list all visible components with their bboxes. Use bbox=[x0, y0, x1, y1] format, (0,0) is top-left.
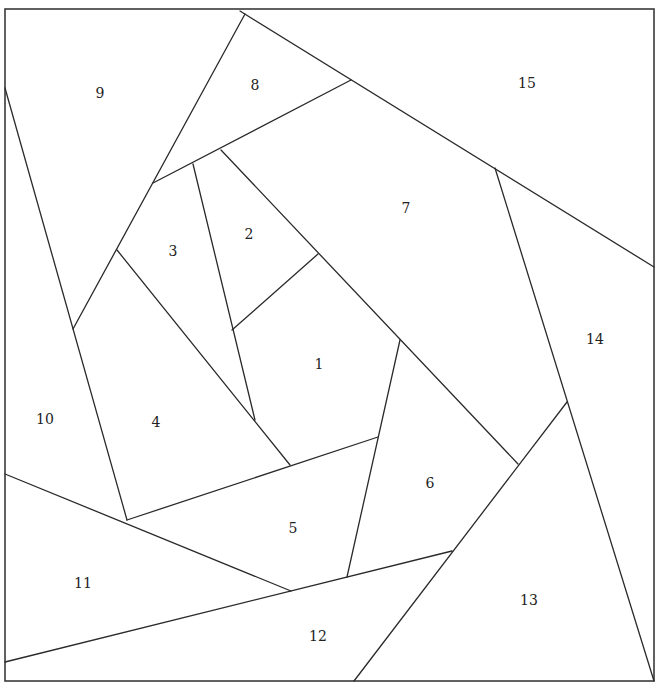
divider-line bbox=[240, 11, 654, 267]
region-label-1: 1 bbox=[315, 356, 324, 372]
divider-line bbox=[193, 164, 255, 420]
region-label-11: 11 bbox=[74, 575, 92, 591]
divider-line bbox=[5, 474, 291, 591]
divider-line bbox=[495, 168, 654, 681]
region-label-10: 10 bbox=[36, 411, 54, 427]
divider-line bbox=[117, 250, 290, 465]
tiling-diagram: 123456789101112131415 bbox=[0, 0, 660, 684]
divider-line bbox=[221, 150, 518, 464]
divider-line bbox=[73, 14, 245, 329]
region-label-9: 9 bbox=[96, 85, 105, 101]
divider-line bbox=[232, 254, 318, 330]
region-label-14: 14 bbox=[586, 331, 604, 347]
divider-line bbox=[347, 340, 400, 577]
divider-lines bbox=[5, 11, 654, 681]
divider-line bbox=[127, 437, 378, 520]
divider-line bbox=[354, 402, 567, 681]
divider-line bbox=[153, 80, 351, 183]
region-label-15: 15 bbox=[518, 75, 536, 91]
region-label-4: 4 bbox=[152, 414, 161, 430]
region-label-5: 5 bbox=[289, 520, 298, 536]
region-label-2: 2 bbox=[245, 226, 254, 242]
region-label-12: 12 bbox=[309, 628, 327, 644]
region-label-8: 8 bbox=[251, 77, 260, 93]
region-label-7: 7 bbox=[402, 200, 411, 216]
region-labels: 123456789101112131415 bbox=[36, 75, 604, 644]
outer-frame bbox=[5, 9, 654, 681]
divider-line bbox=[5, 88, 127, 520]
region-label-13: 13 bbox=[520, 592, 538, 608]
region-label-3: 3 bbox=[169, 243, 178, 259]
region-label-6: 6 bbox=[426, 475, 435, 491]
divider-line bbox=[5, 551, 452, 662]
